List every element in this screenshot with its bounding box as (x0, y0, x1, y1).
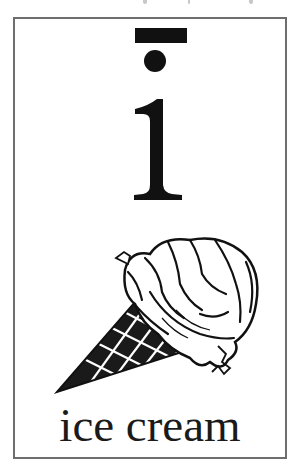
macron-mark (135, 28, 187, 43)
flash-card: ice cream (13, 17, 287, 459)
cropped-text-fragments (0, 0, 293, 8)
vocabulary-word: ice cream (15, 397, 285, 453)
ice-cream-cone-icon (50, 222, 265, 397)
text-fragment (188, 0, 190, 4)
text-fragment (249, 0, 253, 4)
letter-i-stem (130, 97, 190, 201)
text-fragment (143, 0, 147, 4)
letter-dot (144, 50, 166, 72)
